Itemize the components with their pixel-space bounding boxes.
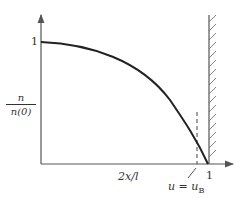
annotation-subscript: B (198, 186, 204, 195)
y-axis-label: n n(0) (6, 92, 36, 117)
diagram-canvas (0, 0, 240, 198)
annotation-label: u = uB (168, 181, 204, 195)
x-tick-label: 1 (206, 170, 213, 181)
annotation-text: u = u (168, 180, 198, 193)
y-axis-label-numerator: n (6, 92, 36, 105)
annotation-pointer (188, 168, 196, 178)
y-tick-label: 1 (31, 36, 38, 47)
x-axis-label: 2x/l (118, 171, 138, 182)
plasma-density-diagram: 1 n n(0) 2x/l 1 u = uB (0, 0, 240, 198)
y-axis-label-denominator: n(0) (6, 105, 36, 117)
density-curve (41, 42, 208, 164)
hatched-wall (209, 15, 216, 164)
